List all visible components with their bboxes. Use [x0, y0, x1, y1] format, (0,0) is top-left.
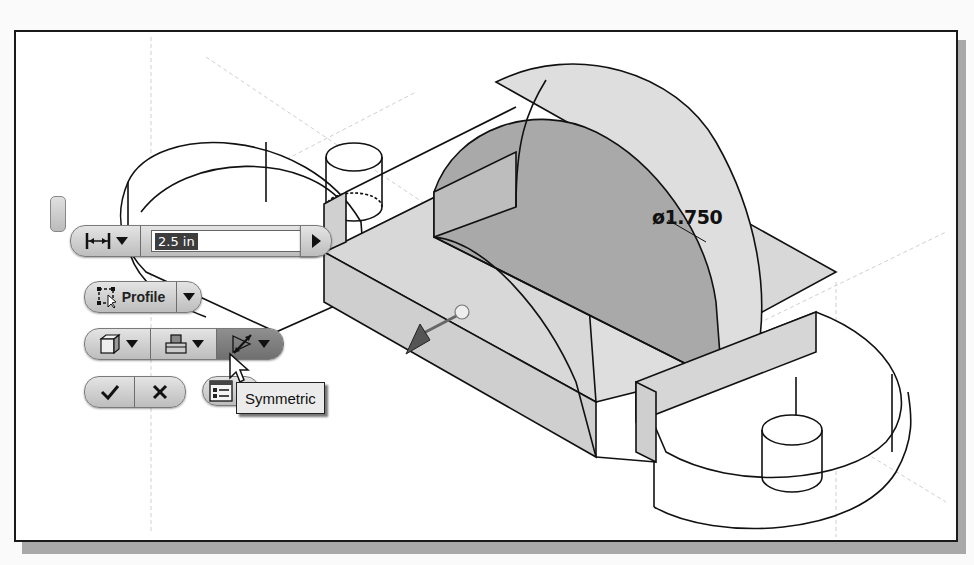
- tooltip-text: Symmetric: [245, 390, 316, 407]
- chevron-down-icon: [258, 340, 270, 348]
- profile-select-icon: [96, 286, 118, 308]
- profile-dropdown[interactable]: [177, 282, 201, 312]
- tooltip: Symmetric: [236, 382, 325, 414]
- chevron-down-icon: [126, 340, 138, 348]
- toolbar-grip-handle[interactable]: [50, 196, 66, 232]
- output-options-pill: [84, 328, 284, 360]
- ok-button[interactable]: [85, 377, 135, 407]
- distance-pill: 2.5 in: [70, 225, 328, 257]
- distance-mode-dropdown[interactable]: [71, 226, 141, 256]
- boolean-dropdown[interactable]: [151, 329, 217, 359]
- profile-button[interactable]: Profile: [85, 282, 177, 312]
- cancel-button[interactable]: [135, 377, 185, 407]
- solid-output-icon: [98, 333, 122, 355]
- distance-input[interactable]: 2.5 in: [151, 230, 315, 252]
- boolean-operation-icon: [164, 333, 188, 355]
- distance-icon: [84, 231, 112, 251]
- diameter-dimension-label[interactable]: ø1.750: [652, 206, 722, 228]
- profile-label: Profile: [122, 289, 166, 305]
- output-solid-dropdown[interactable]: [85, 329, 151, 359]
- profile-pill: Profile: [84, 281, 202, 313]
- distance-value: 2.5 in: [155, 233, 198, 250]
- chevron-down-icon: [192, 340, 204, 348]
- checkmark-icon: [100, 383, 120, 401]
- mouse-cursor-icon: [228, 352, 252, 384]
- close-icon: [152, 384, 168, 400]
- ok-cancel-pill: [84, 376, 186, 408]
- play-arrow-icon: [312, 234, 321, 248]
- distance-accept-button[interactable]: [300, 225, 332, 257]
- chevron-down-icon: [183, 293, 195, 301]
- chevron-down-icon: [116, 237, 128, 245]
